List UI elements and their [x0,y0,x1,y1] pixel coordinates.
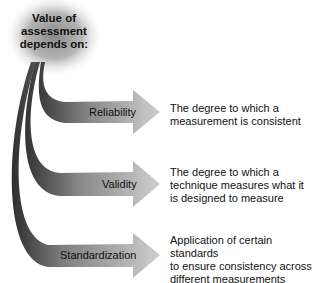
desc-line: The degree to which a [170,166,317,179]
desc-line: Application of certain standards [170,234,317,260]
hub-line-2: assessment [0,25,108,38]
desc-line: different measurements [170,273,317,283]
hub-line-1: Value of [0,12,108,25]
desc-line: The degree to which a [170,102,317,115]
validity-label: Validity [102,178,137,190]
hub-title: Value of assessment depends on: [0,12,108,51]
standardization-description: Application of certain standards to ensu… [170,234,317,283]
validity-arrow [25,62,160,207]
standardization-label: Standardization [60,249,136,261]
hub-line-3: depends on: [0,38,108,51]
validity-description: The degree to which a technique measures… [170,166,317,205]
desc-line: measurement is consistent [170,115,317,128]
reliability-description: The degree to which a measurement is con… [170,102,317,128]
diagram: Value of assessment depends on: Reliabil… [0,0,317,283]
desc-line: is designed to measure [170,192,317,205]
desc-line: to ensure consistency across [170,260,317,273]
reliability-label: Reliability [89,106,136,118]
desc-line: technique measures what it [170,179,317,192]
